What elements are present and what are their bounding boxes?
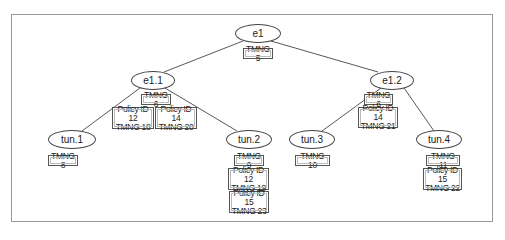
tag-text: TMNG 8 <box>49 152 77 170</box>
node-label: e1.2 <box>382 75 401 86</box>
tag-policy: Policy ID 14 TMNG 20 <box>155 107 197 129</box>
tag-policy: Policy ID 15 TMNG 23 <box>229 191 269 213</box>
node-e1: e1 <box>235 24 281 43</box>
node-label: tun.4 <box>428 134 450 145</box>
tag-text: TMNG 10 <box>296 152 329 170</box>
policy-id-text: Policy ID 12 <box>113 105 153 123</box>
tag-text: TMNG 5 <box>244 45 272 63</box>
edge-e1-e1.1 <box>164 41 243 72</box>
tag-policy: Policy ID 15 TMNG 22 <box>423 168 462 190</box>
node-label: tun.3 <box>301 134 323 145</box>
tag-text: TMNG 18 <box>116 123 151 132</box>
node-label: e1.1 <box>143 75 162 86</box>
tag-tmng: TMNG 10 <box>295 155 330 166</box>
node-label: tun.2 <box>238 134 260 145</box>
tag-tmng: TMNG 5 <box>243 48 273 59</box>
node-e1.1: e1.1 <box>131 71 175 90</box>
tag-policy: Policy ID 12 TMNG 18 <box>112 107 154 129</box>
edge-e1.2-tun.4 <box>404 88 434 131</box>
policy-id-text: Policy ID 12 <box>229 166 268 184</box>
tag-text: TMNG 23 <box>232 207 267 216</box>
node-tun.4: tun.4 <box>416 130 462 149</box>
tag-policy: Policy ID 14 TMNG 21 <box>358 107 398 128</box>
node-e1.2: e1.2 <box>370 71 414 90</box>
policy-id-text: Policy ID 14 <box>156 105 196 123</box>
node-label: tun.1 <box>61 134 83 145</box>
node-label: e1 <box>252 28 263 39</box>
tag-text: TMNG 20 <box>159 123 194 132</box>
tag-policy: Policy ID 12 TMNG 19 <box>228 168 269 190</box>
tag-text: TMNG 21 <box>361 122 396 131</box>
policy-id-text: Policy ID 15 <box>424 166 461 184</box>
node-tun.2: tun.2 <box>226 130 272 149</box>
policy-id-text: Policy ID 15 <box>230 189 268 207</box>
edge-e1-e1.2 <box>271 41 378 72</box>
policy-id-text: Policy ID 14 <box>359 104 397 122</box>
tag-tmng: TMNG 8 <box>48 155 78 166</box>
node-tun.1: tun.1 <box>48 130 96 149</box>
tag-text: TMNG 22 <box>425 184 460 193</box>
node-tun.3: tun.3 <box>289 130 335 149</box>
